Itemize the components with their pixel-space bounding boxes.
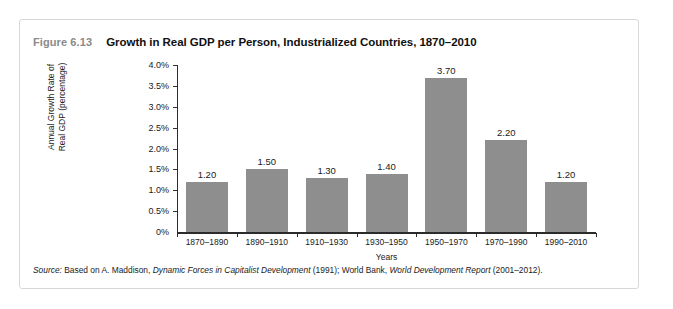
y-axis-title-line-1: Annual Growth Rate of (46, 33, 57, 181)
bar-value-label: 3.70 (418, 65, 474, 76)
source-prefix: Source: (33, 265, 62, 275)
x-tick-mark (357, 233, 358, 237)
source-work-2: World Development Report (389, 265, 490, 275)
bar-value-label: 1.50 (239, 156, 295, 167)
bar-value-label: 1.30 (299, 165, 355, 176)
bar (425, 78, 467, 232)
bar (306, 178, 348, 232)
y-tick-label: 3.5% (129, 81, 169, 91)
y-tick-label: 2.5% (129, 123, 169, 133)
x-axis-line (177, 232, 596, 234)
source-text-2: (1991); World Bank, (310, 265, 389, 275)
bar-value-label: 1.20 (538, 169, 594, 180)
x-tick-mark (476, 233, 477, 237)
x-tick-label: 1910–1930 (294, 237, 360, 248)
bar (485, 140, 527, 232)
x-tick-mark (596, 233, 597, 237)
bar (246, 169, 288, 232)
bar-value-label: 1.20 (179, 169, 235, 180)
y-axis-title-line-2: Real GDP (percentage) (57, 33, 68, 181)
y-tick-label: 0% (129, 227, 169, 237)
x-tick-label: 1950–1970 (413, 237, 479, 248)
y-tick-label: 0.5% (129, 206, 169, 216)
source-work-1: Dynamic Forces in Capitalist Development (153, 265, 311, 275)
x-tick-mark (416, 233, 417, 237)
source-text-1: Based on A. Maddison, (62, 265, 153, 275)
y-tick-label: 4.0% (129, 60, 169, 70)
bar-value-label: 1.40 (359, 161, 415, 172)
bar-chart: Annual Growth Rate of Real GDP (percenta… (20, 20, 638, 288)
y-tick-label: 2.0% (129, 144, 169, 154)
y-tick-label: 1.0% (129, 185, 169, 195)
x-tick-label: 1890–1910 (234, 237, 300, 248)
x-axis-title: Years (177, 252, 596, 262)
y-axis-title: Annual Growth Rate of Real GDP (percenta… (46, 33, 72, 181)
source-text-3: (2001–2012). (490, 265, 542, 275)
x-tick-label: 1990–2010 (533, 237, 599, 248)
y-tick-label: 3.0% (129, 102, 169, 112)
x-tick-label: 1930–1950 (354, 237, 420, 248)
bar (545, 182, 587, 232)
bar (186, 182, 228, 232)
x-tick-label: 1970–1990 (473, 237, 539, 248)
x-tick-mark (297, 233, 298, 237)
bar (366, 174, 408, 232)
x-tick-mark (237, 233, 238, 237)
figure-source: Source: Based on A. Maddison, Dynamic Fo… (33, 265, 629, 276)
y-axis-line (177, 65, 178, 233)
x-tick-mark (536, 233, 537, 237)
x-tick-label: 1870–1890 (174, 237, 240, 248)
x-tick-mark (177, 233, 178, 237)
bar-value-label: 2.20 (478, 127, 534, 138)
y-tick-label: 1.5% (129, 164, 169, 174)
figure-frame: Figure 6.13Growth in Real GDP per Person… (19, 19, 639, 289)
